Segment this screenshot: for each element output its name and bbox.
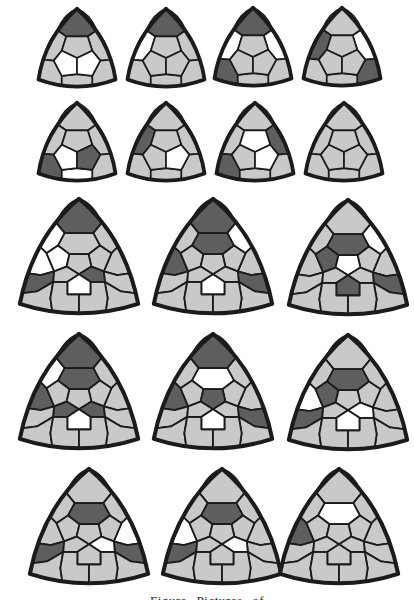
reuleaux-tile-small-8 — [299, 100, 389, 186]
reuleaux-tile-large-2 — [146, 195, 280, 321]
reuleaux-tile-large-5 — [146, 330, 280, 456]
figure-caption: Figure Pictures of — [0, 593, 414, 600]
reuleaux-tile-large-8 — [155, 465, 289, 591]
reuleaux-tile-small-5 — [32, 100, 122, 186]
reuleaux-tile-large-9 — [272, 465, 406, 591]
reuleaux-tile-large-4 — [12, 330, 146, 456]
reuleaux-tile-small-6 — [121, 100, 211, 186]
reuleaux-tile-small-7 — [210, 100, 300, 186]
reuleaux-tile-small-3 — [208, 5, 298, 91]
reuleaux-tile-small-4 — [297, 5, 387, 91]
reuleaux-tile-small-1 — [32, 6, 122, 92]
reuleaux-tile-large-1 — [12, 195, 146, 321]
scanned-figure-page: Figure Pictures of — [0, 0, 414, 600]
reuleaux-tile-small-2 — [121, 6, 211, 92]
reuleaux-tile-large-6 — [281, 331, 414, 457]
reuleaux-tile-large-3 — [281, 196, 414, 322]
reuleaux-tile-large-7 — [22, 465, 156, 591]
